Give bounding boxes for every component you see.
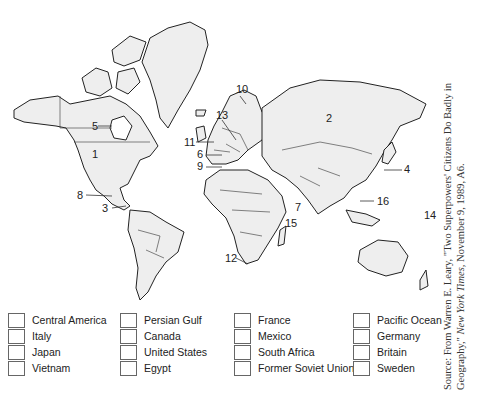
option-united-states[interactable]: United States bbox=[120, 344, 207, 360]
option-germany[interactable]: Germany bbox=[353, 328, 420, 344]
checkbox[interactable] bbox=[8, 361, 25, 376]
option-central-america[interactable]: Central America bbox=[8, 312, 107, 328]
option-mexico[interactable]: Mexico bbox=[234, 328, 291, 344]
checkbox[interactable] bbox=[120, 329, 137, 344]
option-vietnam[interactable]: Vietnam bbox=[8, 360, 70, 376]
publication-name: New York Times, bbox=[455, 265, 466, 335]
checkbox[interactable] bbox=[353, 345, 370, 360]
source-line-1: Source: From Warren E. Leary, "Two Super… bbox=[441, 30, 454, 390]
option-south-africa[interactable]: South Africa bbox=[234, 344, 315, 360]
map-label-14: 14 bbox=[424, 210, 436, 221]
option-sweden[interactable]: Sweden bbox=[353, 360, 415, 376]
option-former-soviet-union[interactable]: Former Soviet Union bbox=[234, 360, 354, 376]
africa bbox=[204, 170, 286, 264]
map-label-6: 6 bbox=[197, 149, 203, 160]
option-pacific-ocean[interactable]: Pacific Ocean bbox=[353, 312, 442, 328]
checkbox[interactable] bbox=[234, 345, 251, 360]
map-label-16: 16 bbox=[377, 196, 389, 207]
map-label-13: 13 bbox=[216, 110, 228, 121]
map-label-5: 5 bbox=[92, 121, 98, 132]
map-label-15: 15 bbox=[285, 218, 297, 229]
north-america bbox=[14, 96, 158, 210]
option-britain[interactable]: Britain bbox=[353, 344, 407, 360]
australia bbox=[358, 240, 408, 276]
checkbox[interactable] bbox=[120, 345, 137, 360]
map-label-1: 1 bbox=[92, 149, 98, 160]
option-egypt[interactable]: Egypt bbox=[120, 360, 171, 376]
world-map bbox=[0, 0, 440, 300]
option-canada[interactable]: Canada bbox=[120, 328, 181, 344]
south-america bbox=[128, 210, 184, 300]
checkbox[interactable] bbox=[8, 345, 25, 360]
checkbox[interactable] bbox=[234, 313, 251, 328]
map-label-11: 11 bbox=[184, 137, 195, 148]
asia bbox=[262, 80, 426, 214]
map-label-4: 4 bbox=[404, 164, 410, 175]
checkbox[interactable] bbox=[353, 361, 370, 376]
source-line-2: Geography," New York Times, November 9, … bbox=[454, 30, 467, 390]
map-label-9: 9 bbox=[197, 161, 203, 172]
map-label-2: 2 bbox=[326, 113, 332, 124]
checkbox[interactable] bbox=[353, 329, 370, 344]
checkbox[interactable] bbox=[120, 313, 137, 328]
map-label-3: 3 bbox=[102, 203, 108, 214]
option-italy[interactable]: Italy bbox=[8, 328, 51, 344]
map-label-8: 8 bbox=[77, 190, 83, 201]
checkbox[interactable] bbox=[234, 329, 251, 344]
option-france[interactable]: France bbox=[234, 312, 291, 328]
checkbox[interactable] bbox=[353, 313, 370, 328]
source-citation: Source: From Warren E. Leary, "Two Super… bbox=[441, 30, 467, 390]
option-persian-gulf[interactable]: Persian Gulf bbox=[120, 312, 202, 328]
map-label-7: 7 bbox=[295, 202, 301, 213]
checkbox[interactable] bbox=[8, 329, 25, 344]
checkbox[interactable] bbox=[8, 313, 25, 328]
map-label-10: 10 bbox=[236, 84, 248, 95]
checkbox[interactable] bbox=[234, 361, 251, 376]
checkbox[interactable] bbox=[120, 361, 137, 376]
map-label-12: 12 bbox=[225, 253, 237, 264]
option-japan[interactable]: Japan bbox=[8, 344, 61, 360]
